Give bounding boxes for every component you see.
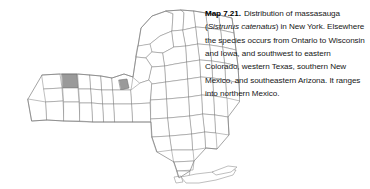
county	[167, 97, 190, 118]
county	[186, 44, 200, 62]
county	[102, 90, 114, 104]
county	[42, 74, 62, 89]
county	[44, 88, 63, 102]
county	[151, 99, 168, 119]
caption-body-end: ) in New York. Elsewhere the species occ…	[205, 22, 365, 98]
scientific-name: Sistrurus catenatus	[208, 22, 276, 31]
county	[113, 90, 132, 104]
county	[174, 161, 194, 171]
county-occupied-west	[62, 74, 78, 88]
county	[189, 95, 203, 116]
county	[131, 80, 152, 104]
county	[78, 74, 91, 89]
county	[64, 102, 80, 121]
county	[46, 101, 64, 121]
county	[63, 88, 79, 102]
county	[103, 104, 115, 122]
county	[203, 114, 216, 133]
county	[190, 114, 205, 134]
county	[151, 118, 170, 137]
figure-label: Map 7.21.	[205, 9, 241, 18]
county	[188, 77, 202, 97]
county	[79, 89, 92, 103]
county-group-metro	[172, 150, 194, 178]
county	[92, 103, 104, 122]
county	[80, 103, 93, 122]
county	[132, 103, 151, 122]
county	[187, 60, 201, 79]
county-group-hudson	[151, 114, 229, 152]
county	[205, 132, 217, 149]
county	[91, 89, 103, 104]
county	[183, 27, 198, 46]
county	[114, 104, 133, 122]
new-york-county-map	[0, 0, 240, 189]
county	[152, 136, 172, 152]
county	[168, 116, 192, 136]
county	[170, 134, 193, 150]
caption-panel: Map 7.21.Distribution of massasauga (Sis…	[205, 7, 365, 100]
county	[151, 82, 167, 100]
county	[172, 150, 194, 162]
county	[90, 75, 102, 90]
figure-map-7-21: Map 7.21.Distribution of massasauga (Sis…	[0, 0, 370, 189]
county	[215, 115, 229, 135]
county	[166, 79, 189, 99]
county	[149, 66, 166, 84]
county	[192, 132, 206, 150]
county	[28, 99, 47, 121]
map-panel	[0, 0, 240, 189]
county-occupied-central	[119, 79, 129, 90]
figure-caption: Map 7.21.Distribution of massasauga (Sis…	[205, 7, 365, 100]
